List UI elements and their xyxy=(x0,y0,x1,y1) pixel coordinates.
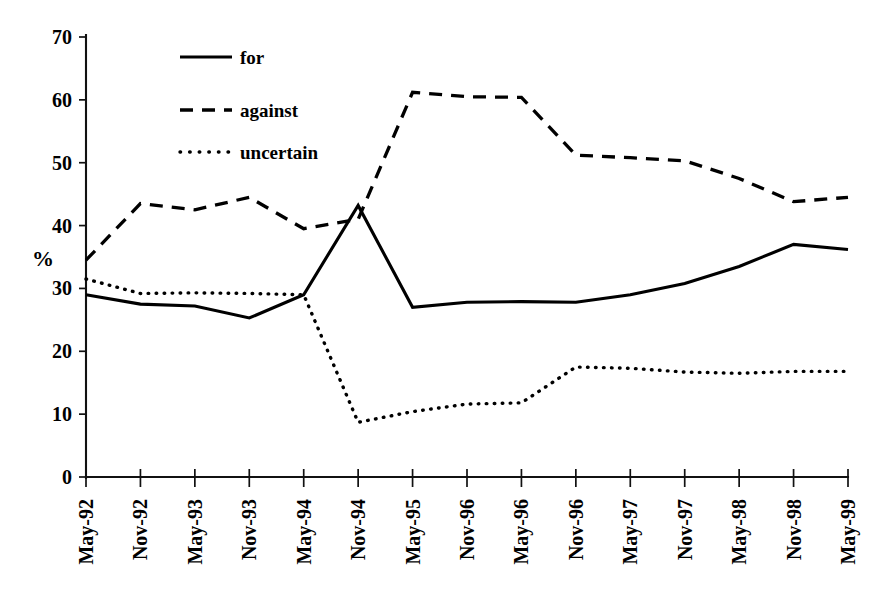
y-tick-label: 0 xyxy=(62,466,72,488)
y-tick-label: 70 xyxy=(52,26,72,48)
x-tick-label: May-92 xyxy=(75,499,98,565)
legend-label-for: for xyxy=(240,47,265,68)
y-tick-label: 60 xyxy=(52,89,72,111)
x-tick-label: May-97 xyxy=(619,499,642,565)
x-tick-label: May-94 xyxy=(293,499,316,565)
x-axis-tick-labels: May-92Nov-92May-93Nov-93May-94Nov-94May-… xyxy=(75,499,860,565)
x-tick-label: May-99 xyxy=(837,499,860,565)
y-tick-label: 10 xyxy=(52,403,72,425)
x-tick-label: May-96 xyxy=(510,499,533,565)
x-tick-label: Nov-96 xyxy=(456,499,478,560)
x-tick-label: Nov-98 xyxy=(783,499,805,560)
line-chart: 010203040506070 % May-92Nov-92May-93Nov-… xyxy=(0,0,885,612)
x-tick-label: May-98 xyxy=(728,499,751,565)
x-tick-label: Nov-96 xyxy=(565,499,587,560)
y-tick-label: 20 xyxy=(52,340,72,362)
chart-container: 010203040506070 % May-92Nov-92May-93Nov-… xyxy=(0,0,885,612)
x-tick-label: Nov-93 xyxy=(238,499,260,560)
legend-label-uncertain: uncertain xyxy=(240,142,319,163)
x-tick-label: May-93 xyxy=(184,499,207,565)
x-tick-label: Nov-94 xyxy=(347,499,369,560)
y-tick-label: 40 xyxy=(52,215,72,237)
legend-label-against: against xyxy=(240,100,299,121)
x-tick-label: Nov-92 xyxy=(129,499,151,560)
y-tick-label: 50 xyxy=(52,152,72,174)
x-tick-label: May-95 xyxy=(402,499,425,565)
y-axis-title: % xyxy=(32,246,54,271)
x-tick-label: Nov-97 xyxy=(674,499,696,560)
y-tick-label: 30 xyxy=(52,277,72,299)
